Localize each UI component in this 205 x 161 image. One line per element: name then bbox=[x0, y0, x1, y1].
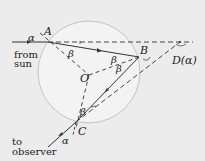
label-A: A bbox=[43, 25, 52, 38]
label-O: O bbox=[80, 72, 89, 85]
to-label-line2: observer bbox=[12, 146, 57, 157]
label-D: D(α) bbox=[171, 54, 197, 67]
angle-alpha-in: α bbox=[28, 32, 35, 43]
angle-arc-B bbox=[143, 57, 150, 60]
angle-arc-D bbox=[176, 44, 186, 46]
point-D bbox=[179, 41, 181, 43]
angle-beta-C: β bbox=[79, 106, 86, 117]
diagram-svg: A B O C D(α) α β β β β α from sun to obs… bbox=[0, 0, 205, 161]
angle-alpha-out: α bbox=[62, 135, 69, 146]
raindrop-diagram: A B O C D(α) α β β β β α from sun to obs… bbox=[0, 0, 205, 161]
angle-beta-A: β bbox=[67, 48, 74, 59]
label-C: C bbox=[78, 125, 87, 138]
from-label-line2: sun bbox=[14, 58, 33, 69]
angle-beta-B2: β bbox=[115, 63, 122, 74]
label-B: B bbox=[139, 44, 148, 57]
